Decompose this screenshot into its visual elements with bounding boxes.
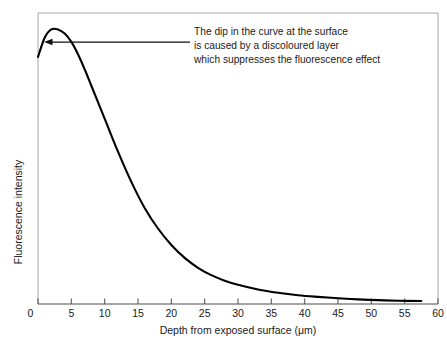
x-tick-label-35: 35: [265, 307, 277, 319]
y-axis-title: Fluorescence intensity: [12, 159, 24, 264]
x-tick-label-5: 5: [68, 307, 74, 319]
x-tick-label-15: 15: [132, 307, 144, 319]
x-tick-label-45: 45: [332, 307, 344, 319]
x-tick-label-40: 40: [299, 307, 311, 319]
x-tick-label-30: 30: [232, 307, 244, 319]
x-tick-label-10: 10: [99, 307, 111, 319]
x-tick-label-25: 25: [199, 307, 211, 319]
annotation-line-1: The dip in the curve at the surface: [194, 26, 348, 37]
chart-figure: 0 5 10 15 20 25 30 35 40 45 50 55 60 Dep…: [0, 0, 447, 342]
x-tick-label-0: 0: [28, 307, 34, 319]
annotation-line-3: which suppresses the fluorescence effect: [193, 54, 380, 65]
x-tick-label-20: 20: [165, 307, 177, 319]
x-tick-label-50: 50: [365, 307, 377, 319]
chart-background: [0, 0, 447, 342]
x-tick-label-55: 55: [399, 307, 411, 319]
x-axis-title: Depth from exposed surface (μm): [160, 324, 317, 336]
annotation-line-2: is caused by a discoloured layer: [194, 40, 340, 51]
x-tick-label-60: 60: [432, 307, 444, 319]
chart-svg: 0 5 10 15 20 25 30 35 40 45 50 55 60 Dep…: [0, 0, 447, 342]
